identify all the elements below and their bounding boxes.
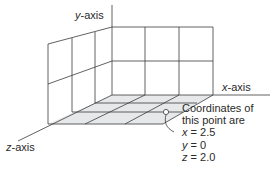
- z-suffix: -axis: [12, 141, 35, 153]
- annotation-line-1: Coordinates of: [182, 102, 254, 114]
- x-axis-label: x-axis: [222, 81, 251, 93]
- annotation-z-num: = 2.0: [188, 151, 216, 163]
- annotation-y-num: = 0: [188, 139, 207, 151]
- point-annotation: Coordinates of this point are x = 2.5 y …: [182, 102, 254, 163]
- annotation-x-value: x = 2.5: [182, 126, 254, 138]
- z-axis-label: z-axis: [6, 141, 35, 153]
- coordinate-point: [163, 109, 168, 114]
- annotation-z-value: z = 2.0: [182, 151, 254, 163]
- annotation-line-2: this point are: [182, 114, 254, 126]
- x-suffix: -axis: [228, 81, 251, 93]
- y-axis-label: y-axis: [75, 9, 104, 21]
- annotation-x-num: = 2.5: [188, 126, 216, 138]
- back-wall-grid: [112, 27, 213, 95]
- y-suffix: -axis: [81, 9, 104, 21]
- annotation-y-value: y = 0: [182, 139, 254, 151]
